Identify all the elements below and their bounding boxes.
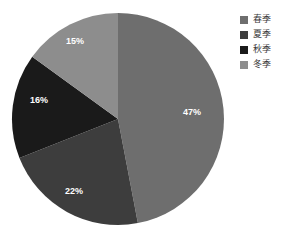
legend-swatch-summer [240,31,248,39]
pie-label-spring: 47% [183,107,201,117]
chart-legend: 春季 夏季 秋季 冬季 [240,14,290,70]
pie-label-winter: 15% [66,36,84,46]
legend-label-autumn: 秋季 [253,44,271,55]
legend-item-spring[interactable]: 春季 [240,14,290,25]
legend-swatch-spring [240,16,248,24]
legend-item-summer[interactable]: 夏季 [240,29,290,40]
legend-label-spring: 春季 [253,14,271,25]
pie-label-autumn: 16% [30,95,48,105]
legend-label-winter: 冬季 [253,59,271,70]
legend-label-summer: 夏季 [253,29,271,40]
pie-label-summer: 22% [65,186,83,196]
pie-slices [12,13,224,225]
pie-chart: 47% 22% 16% 15% 春季 夏季 秋季 冬季 [0,0,292,235]
pie-slice-spring[interactable] [118,13,224,223]
legend-item-winter[interactable]: 冬季 [240,59,290,70]
legend-swatch-autumn [240,46,248,54]
legend-swatch-winter [240,61,248,69]
legend-item-autumn[interactable]: 秋季 [240,44,290,55]
